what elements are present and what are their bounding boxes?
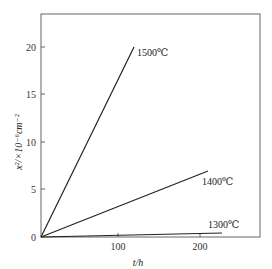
x-axis: 100 200 — [111, 233, 208, 252]
series-label-1500: 1500℃ — [137, 47, 168, 58]
series-label-1300: 1300℃ — [208, 219, 239, 230]
y-tick-label: 20 — [26, 42, 36, 53]
y-tick-label: 5 — [31, 184, 36, 195]
series-line-1500 — [41, 47, 134, 237]
series-line-1400 — [41, 171, 208, 237]
series-label-1400: 1400℃ — [202, 176, 233, 187]
y-tick-label: 0 — [31, 232, 36, 243]
series-line-1300 — [41, 233, 222, 237]
x-tick-label: 200 — [193, 241, 208, 252]
y-axis-title: x²/×10⁻⁶cm⁻² — [13, 113, 24, 171]
x-axis-title: t/h — [133, 257, 144, 268]
y-tick-label: 10 — [26, 137, 36, 148]
chart: 20 15 10 5 0 100 200 t/h x²/×10⁻⁶cm⁻² 15… — [0, 0, 272, 269]
y-tick-label: 15 — [26, 89, 36, 100]
y-axis: 20 15 10 5 0 — [26, 42, 45, 243]
x-tick-label: 100 — [111, 241, 126, 252]
